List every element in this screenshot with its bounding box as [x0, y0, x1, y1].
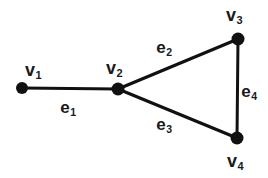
- edge-label-e3: e3: [156, 116, 171, 133]
- vertex-label-v3-text: v: [226, 5, 236, 25]
- vertex-label-v1-sub: 1: [35, 69, 41, 81]
- vertex-label-v1: v1: [25, 61, 41, 79]
- edge-label-e2: e2: [156, 39, 171, 56]
- edge-label-e1-text: e: [60, 98, 69, 117]
- vertex-label-v2-sub: 2: [116, 67, 122, 79]
- vertex-v3: [232, 33, 245, 46]
- vertex-label-v1-text: v: [25, 60, 35, 80]
- vertex-label-v4-text: v: [227, 151, 237, 171]
- vertex-v2: [112, 83, 125, 96]
- edge-label-e4-sub: 4: [251, 90, 257, 102]
- vertex-label-v2: v2: [106, 59, 122, 77]
- vertex-label-v4-sub: 4: [237, 160, 243, 172]
- edge-label-e1: e1: [60, 99, 75, 116]
- edge-label-e2-sub: 2: [166, 46, 172, 58]
- edge-label-e4-text: e: [241, 82, 250, 101]
- edge-label-e2-text: e: [156, 38, 165, 57]
- graph-diagram: v1 v2 v3 v4 e1 e2 e3 e4: [0, 0, 268, 178]
- edge-label-e1-sub: 1: [70, 106, 76, 118]
- edge-e1: [22, 88, 118, 89]
- vertex-v1: [16, 82, 28, 94]
- edge-label-e3-sub: 3: [166, 123, 172, 135]
- edge-e2: [118, 39, 238, 89]
- vertex-label-v4: v4: [227, 152, 243, 170]
- vertex-label-v2-text: v: [106, 58, 116, 78]
- edge-label-e3-text: e: [156, 115, 165, 134]
- edge-e4: [237, 39, 238, 138]
- vertex-v4: [231, 132, 244, 145]
- vertex-label-v3: v3: [226, 6, 242, 24]
- edge-label-e4: e4: [241, 83, 256, 100]
- vertex-label-v3-sub: 3: [236, 14, 242, 26]
- edge-e3: [118, 89, 237, 138]
